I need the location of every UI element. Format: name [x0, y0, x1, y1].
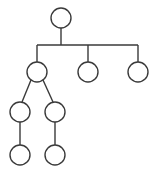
edge-a-a1: [22, 80, 31, 102]
tree-node-root: [51, 8, 71, 28]
nodes: [10, 8, 148, 165]
tree-node-a: [27, 62, 47, 82]
tree-node-a1x: [10, 145, 30, 165]
tree-diagram: [0, 0, 158, 174]
tree-node-a1: [10, 102, 30, 122]
edges: [20, 28, 138, 145]
edge-a-a2: [43, 80, 53, 102]
tree-node-c: [128, 62, 148, 82]
tree-node-b: [78, 62, 98, 82]
tree-node-a2x: [45, 145, 65, 165]
tree-node-a2: [45, 102, 65, 122]
